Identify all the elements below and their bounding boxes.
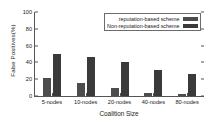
legend-label-non-reputation-based: Non-reputation-based scheme <box>107 23 180 29</box>
y-tick-mark <box>35 96 38 97</box>
legend-item-reputation-based: reputation-based scheme <box>107 15 198 22</box>
x-tick-label: 5-nodes <box>42 99 62 105</box>
bar-reputation-based <box>144 93 152 96</box>
y-tick-label: 0 <box>29 93 32 99</box>
legend-swatch-non-reputation-based <box>183 24 198 28</box>
bar-non-reputation-based <box>53 54 61 96</box>
x-tick-label: 10-nodes <box>74 99 97 105</box>
y-tick-mark <box>201 28 204 29</box>
x-axis-title: Coalition Size <box>34 110 204 117</box>
y-tick-mark <box>201 12 204 13</box>
bar-non-reputation-based <box>188 74 196 96</box>
y-tick-label: 80 <box>26 26 32 32</box>
y-tick-mark <box>201 62 204 63</box>
x-tick-label: 20-nodes <box>108 99 131 105</box>
y-axis-title: False Positives(%) <box>9 8 16 94</box>
bar-reputation-based <box>43 78 51 96</box>
x-tick-label: 80-nodes <box>175 99 198 105</box>
y-tick-mark <box>201 79 204 80</box>
legend-item-non-reputation-based: Non-reputation-based scheme <box>107 22 198 29</box>
y-tick-mark <box>35 28 38 29</box>
chart-figure: False Positives(%) 0204060801005-nodes10… <box>0 0 212 125</box>
bar-reputation-based <box>178 94 186 96</box>
legend-swatch-reputation-based <box>183 17 198 21</box>
y-tick-mark <box>35 79 38 80</box>
bar-non-reputation-based <box>121 62 129 96</box>
y-tick-label: 40 <box>26 59 32 65</box>
bar-non-reputation-based <box>154 70 162 96</box>
bar-non-reputation-based <box>87 57 95 96</box>
y-tick-mark <box>201 45 204 46</box>
y-tick-label: 20 <box>26 76 32 82</box>
y-tick-label: 60 <box>26 43 32 49</box>
bar-reputation-based <box>77 83 85 96</box>
y-tick-label: 100 <box>23 9 32 15</box>
y-tick-mark <box>35 45 38 46</box>
bar-reputation-based <box>111 88 119 96</box>
chart-legend: reputation-based scheme Non-reputation-b… <box>104 13 201 31</box>
y-tick-mark <box>35 12 38 13</box>
legend-label-reputation-based: reputation-based scheme <box>119 16 180 22</box>
x-tick-label: 40-nodes <box>142 99 165 105</box>
y-tick-mark <box>201 96 204 97</box>
y-tick-mark <box>35 62 38 63</box>
